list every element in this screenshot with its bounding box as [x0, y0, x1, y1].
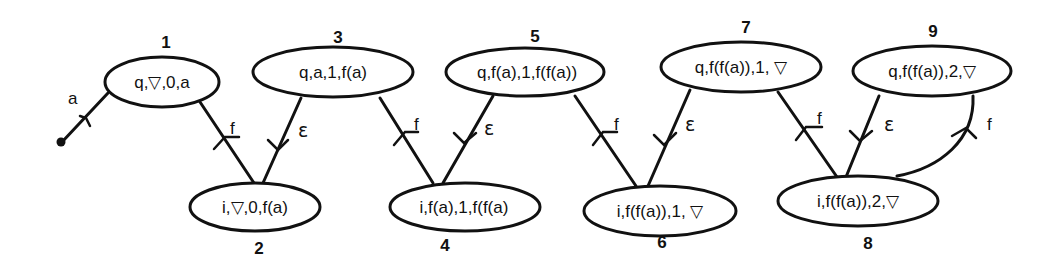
- state-number: 6: [657, 233, 666, 252]
- state-node-4: i,f(a),1,f(f(a) 4: [390, 183, 540, 255]
- state-label: i,f(f(a)),2,▽: [817, 192, 900, 211]
- state-number: 2: [254, 239, 263, 258]
- edge-label-epsilon: ε: [298, 119, 308, 141]
- state-node-9: q,f(f(a)),2,▽ 9: [853, 22, 1011, 96]
- edge-label-epsilon: ε: [685, 113, 695, 135]
- state-label: q,f(f(a)),2,▽: [888, 62, 977, 81]
- edge-9-8: ε: [846, 96, 894, 177]
- edge-label-f: f: [230, 119, 235, 138]
- state-number: 1: [161, 33, 170, 52]
- state-node-3: q,a,1,f(a) 3: [253, 28, 413, 97]
- edge-start-1: a: [57, 89, 109, 147]
- edge-7-8: f: [778, 92, 837, 177]
- state-label: q,f(f(a)),1, ▽: [695, 58, 788, 77]
- state-node-6: i,f(f(a)),1, ▽ 6: [584, 186, 736, 252]
- state-node-2: i,▽,0,f(a) 2: [190, 183, 320, 258]
- state-number: 4: [440, 236, 450, 255]
- state-number: 5: [530, 27, 539, 46]
- state-node-8: i,f(f(a)),2,▽ 8: [778, 176, 938, 253]
- edge-1-2: f: [200, 102, 254, 183]
- state-number: 8: [863, 234, 872, 253]
- start-dot-icon: [57, 138, 66, 147]
- state-node-1: q,▽,0,a 1: [105, 33, 219, 107]
- edge-label-f: f: [414, 115, 419, 134]
- state-diagram: a f ε f ε f ε f: [0, 0, 1041, 277]
- state-label: q,f(a),1,f(f(a)): [477, 63, 577, 82]
- state-label: q,a,1,f(a): [299, 63, 367, 82]
- state-node-7: q,f(f(a)),1, ▽ 7: [661, 18, 821, 92]
- edge-5-4: ε: [443, 96, 494, 183]
- edge-label-f: f: [817, 109, 822, 128]
- edge-label-epsilon: ε: [484, 117, 494, 139]
- edge-3-2: ε: [263, 98, 308, 183]
- edge-label-epsilon: ε: [884, 113, 894, 135]
- edge-label-a: a: [68, 89, 78, 108]
- edge-5-6: f: [575, 96, 636, 186]
- state-label: i,▽,0,f(a): [222, 198, 288, 217]
- state-node-5: q,f(a),1,f(f(a)) 5: [446, 27, 604, 96]
- state-label: i,f(f(a)),1, ▽: [617, 202, 705, 221]
- state-label: i,f(a),1,f(f(a): [420, 198, 509, 217]
- state-number: 9: [928, 22, 937, 41]
- edge-label-f: f: [614, 115, 619, 134]
- edge-7-6: ε: [648, 90, 695, 186]
- edge-3-4: f: [380, 98, 433, 183]
- edge-label-f: f: [987, 115, 992, 134]
- state-number: 3: [333, 28, 342, 47]
- state-number: 7: [741, 18, 750, 37]
- state-label: q,▽,0,a: [134, 73, 190, 92]
- edge-8-9: f: [897, 96, 992, 176]
